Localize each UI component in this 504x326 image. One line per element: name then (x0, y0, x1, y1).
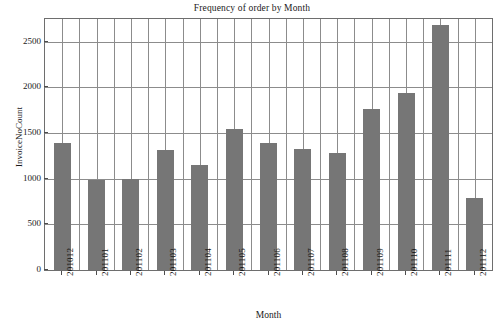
gridline-vertical (217, 19, 218, 270)
gridline-vertical (79, 19, 80, 270)
gridline-vertical (320, 19, 321, 270)
gridline-vertical (251, 19, 252, 270)
x-tick-label: 201103 (168, 224, 178, 276)
y-tick-mark (44, 41, 48, 42)
x-tick-mark (439, 271, 440, 275)
x-tick-label: 201109 (375, 224, 385, 276)
y-tick-label: 2000 (3, 81, 41, 91)
y-tick-mark (44, 269, 48, 270)
y-tick-mark (44, 86, 48, 87)
x-tick-label: 201012 (65, 224, 75, 276)
x-tick-mark (371, 271, 372, 275)
x-tick-label: 201108 (340, 224, 350, 276)
x-tick-mark (164, 271, 165, 275)
gridline-vertical (114, 19, 115, 270)
x-tick-label: 201112 (478, 224, 488, 276)
x-tick-label: 201104 (203, 224, 213, 276)
x-tick-mark (199, 271, 200, 275)
x-tick-label: 201107 (306, 224, 316, 276)
x-tick-label: 201101 (100, 224, 110, 276)
x-tick-label: 201102 (134, 224, 144, 276)
y-tick-label: 1000 (3, 173, 41, 183)
gridline-vertical (354, 19, 355, 270)
x-tick-mark (233, 271, 234, 275)
gridline-vertical (458, 19, 459, 270)
x-tick-mark (336, 271, 337, 275)
x-tick-label: 201105 (237, 224, 247, 276)
y-axis-tick-labels: 05001000150020002500 (0, 0, 41, 326)
y-tick-label: 2500 (3, 36, 41, 46)
x-tick-mark (96, 271, 97, 275)
y-tick-label: 0 (3, 264, 41, 274)
gridline-vertical (286, 19, 287, 270)
x-tick-mark (268, 271, 269, 275)
y-tick-mark (44, 132, 48, 133)
y-tick-label: 1500 (3, 127, 41, 137)
x-tick-label: 201110 (409, 224, 419, 276)
x-tick-mark (474, 271, 475, 275)
x-tick-mark (130, 271, 131, 275)
bar-chart-figure: Frequency of order by Month InvoiceNoCou… (0, 0, 504, 326)
plot-area (44, 18, 493, 271)
x-tick-label: 201111 (443, 224, 453, 276)
x-tick-mark (405, 271, 406, 275)
gridline-vertical (183, 19, 184, 270)
gridline-vertical (423, 19, 424, 270)
gridline-vertical (148, 19, 149, 270)
x-tick-mark (302, 271, 303, 275)
x-tick-label: 201106 (272, 224, 282, 276)
y-tick-mark (44, 178, 48, 179)
y-tick-mark (44, 223, 48, 224)
x-axis-title: Month (44, 310, 493, 320)
chart-title: Frequency of order by Month (0, 3, 504, 13)
gridline-vertical (389, 19, 390, 270)
x-tick-mark (61, 271, 62, 275)
y-tick-label: 500 (3, 218, 41, 228)
